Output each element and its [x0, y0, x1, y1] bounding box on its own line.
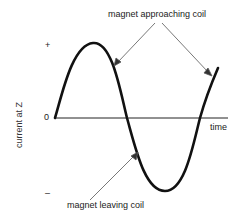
x-axis-label: time: [210, 122, 227, 132]
current-waveform: [55, 43, 218, 191]
y-axis-label: current at Z: [14, 102, 24, 148]
tick-plus: +: [45, 40, 50, 50]
induced-current-graph: [0, 0, 243, 224]
tick-zero: 0: [44, 112, 49, 122]
approaching-arrows: [114, 23, 212, 76]
annotation-approaching: magnet approaching coil: [108, 9, 206, 19]
tick-minus: –: [45, 188, 50, 198]
annotation-leaving: magnet leaving coil: [67, 200, 144, 210]
leaving-arrow: [90, 152, 138, 200]
